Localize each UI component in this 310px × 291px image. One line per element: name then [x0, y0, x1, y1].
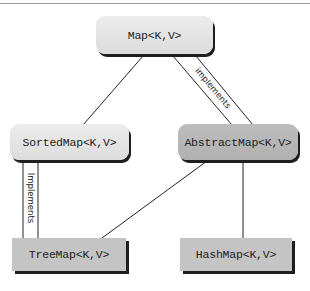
node-hashmap-label: HashMap<K,V>: [196, 248, 276, 261]
implements-label-sortedmap-treemap: Implements: [26, 173, 36, 223]
node-sortedmap: SortedMap<K,V>: [10, 124, 129, 160]
edge-map-abstractmap-left: [173, 56, 232, 125]
node-treemap-label: TreeMap<K,V>: [29, 248, 109, 261]
node-treemap: TreeMap<K,V>: [12, 238, 126, 271]
edge-abstractmap-treemap: [102, 161, 207, 238]
edge-map-abstractmap-right: [196, 56, 253, 125]
node-hashmap: HashMap<K,V>: [180, 238, 292, 271]
node-abstractmap: AbstractMap<K,V>: [178, 124, 298, 160]
node-abstractmap-label: AbstractMap<K,V>: [184, 136, 291, 149]
node-sortedmap-label: SortedMap<K,V>: [23, 136, 117, 149]
edge-map-sortedmap: [83, 56, 143, 125]
node-map-label: Map<K,V>: [128, 29, 182, 42]
node-map: Map<K,V>: [96, 16, 213, 54]
